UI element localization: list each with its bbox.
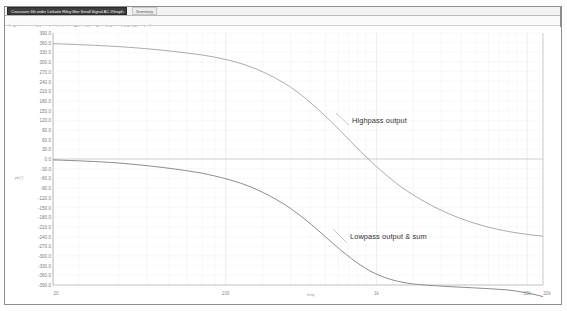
y-tick: 180.0 — [40, 98, 52, 103]
y-axis-tick-labels: 390.0 360.0 330.0 300.0 270.0 240.0 210.… — [5, 27, 51, 304]
annotation-highpass-output: Highpass output — [352, 116, 407, 125]
y-tick: -270.0 — [38, 244, 51, 249]
y-tick: 390.0 — [40, 31, 52, 36]
x-tick: 100 — [222, 291, 230, 296]
x-tick: 1k — [374, 291, 379, 296]
y-tick: 120.0 — [40, 118, 52, 123]
phase-response-plot — [5, 27, 561, 304]
y-tick: -150.0 — [38, 205, 51, 210]
application-window: Crossover 4th order Linkwitz Riley filte… — [4, 6, 562, 305]
y-tick: -300.0 — [38, 253, 51, 258]
y-tick: 150.0 — [40, 108, 52, 113]
y-tick: 90.0 — [42, 127, 51, 132]
y-tick: -330.0 — [38, 263, 51, 268]
y-tick: 360.0 — [40, 40, 52, 45]
y-tick: -90.0 — [41, 186, 51, 191]
annotation-lowpass-output-sum: Lowpass output & sum — [350, 232, 427, 241]
y-axis-unit-label: ph(°) — [15, 176, 23, 180]
tab-graph[interactable]: Crossover 4th order Linkwitz Riley filte… — [7, 7, 127, 15]
tab-strip: Crossover 4th order Linkwitz Riley filte… — [5, 7, 560, 16]
y-tick: 240.0 — [40, 79, 52, 84]
y-tick: 270.0 — [40, 69, 52, 74]
x-tick: 20 — [53, 291, 58, 296]
y-tick: -240.0 — [38, 234, 51, 239]
y-tick: -120.0 — [38, 195, 51, 200]
y-tick: 0.0 — [45, 157, 51, 162]
x-axis-title: freq — [307, 292, 314, 297]
y-tick: -360.0 — [38, 273, 51, 278]
x-tick: 20k — [543, 291, 550, 296]
y-tick: 330.0 — [40, 50, 52, 55]
document-title-bar: Crossover 4th order Linkwitz Riley filte… — [5, 16, 560, 26]
y-tick: 60.0 — [42, 137, 51, 142]
y-tick: -60.0 — [41, 176, 51, 181]
x-axis-tick-labels: 20 100 1k 10k 20k — [5, 291, 561, 298]
y-tick: 210.0 — [40, 89, 52, 94]
y-tick: -390.0 — [38, 283, 51, 288]
y-tick: -30.0 — [41, 166, 51, 171]
tab-summary[interactable]: Summary — [132, 7, 157, 15]
y-tick: 30.0 — [42, 147, 51, 152]
chart-canvas: 390.0 360.0 330.0 300.0 270.0 240.0 210.… — [5, 27, 561, 304]
y-tick: -180.0 — [38, 215, 51, 220]
screenshot-root: Crossover 4th order Linkwitz Riley filte… — [0, 0, 567, 311]
y-tick: 300.0 — [40, 60, 52, 65]
y-tick: -210.0 — [38, 224, 51, 229]
x-tick: 10k — [523, 291, 530, 296]
